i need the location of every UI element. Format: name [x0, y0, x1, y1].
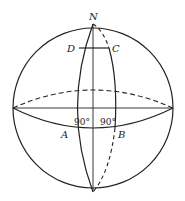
label-b: B [117, 129, 125, 140]
label-c: C [112, 43, 120, 54]
label-a: A [60, 129, 68, 140]
angle-label-a: 90° [74, 117, 90, 127]
sphere-diagram: N D C A B 90° 90° [0, 0, 185, 201]
label-d: D [66, 43, 75, 54]
label-n: N [88, 11, 99, 22]
meridian-right-lower-dashed [93, 128, 115, 192]
angle-label-b: 90° [100, 117, 116, 127]
meridian-right-middle [109, 48, 116, 128]
